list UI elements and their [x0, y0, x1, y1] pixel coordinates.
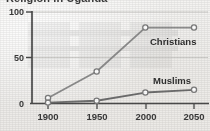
y-tick-label-50: 50 — [14, 53, 24, 63]
data-point-muslims-2050 — [191, 87, 196, 92]
series-label-christians: Christians — [150, 36, 196, 47]
x-tick-label-1950: 1950 — [86, 111, 107, 122]
series-line-muslims — [48, 90, 194, 103]
x-tick-label-2050: 2050 — [183, 111, 204, 122]
chart-canvas: 100 50 0 1900 1950 2000 2050 Christians … — [0, 0, 210, 131]
y-tick-label-100: 100 — [9, 7, 24, 17]
data-point-muslims-1900 — [45, 100, 50, 105]
x-tick-label-1900: 1900 — [37, 111, 58, 122]
y-tick-label-0: 0 — [19, 99, 24, 109]
data-point-christians-2000 — [143, 25, 148, 30]
x-tick-label-2000: 2000 — [135, 111, 156, 122]
data-point-muslims-1950 — [94, 98, 99, 103]
data-point-christians-1950 — [94, 69, 99, 74]
data-point-christians-2050 — [191, 25, 196, 30]
data-point-muslims-2000 — [143, 90, 148, 95]
y-axis — [26, 11, 32, 104]
x-axis — [30, 104, 209, 110]
chart-figure: Religion in Uganda 100 50 0 1900 1950 20… — [0, 0, 210, 131]
series-label-muslims: Muslims — [153, 75, 191, 86]
